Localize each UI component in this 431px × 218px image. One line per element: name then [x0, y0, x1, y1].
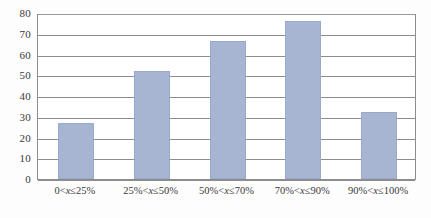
- bar: [285, 21, 321, 179]
- y-axis-tick-label: 40: [0, 91, 31, 102]
- bar: [58, 123, 94, 179]
- y-axis-tick-label: 0: [0, 174, 31, 185]
- y-axis-tick-label: 50: [0, 70, 31, 81]
- y-axis-tick-label: 20: [0, 133, 31, 144]
- y-axis-tick-label: 10: [0, 153, 31, 164]
- x-axis-tick-label: 90%<x≤100%: [340, 184, 416, 197]
- y-axis-tick-label: 30: [0, 112, 31, 123]
- x-axis-tick-label: 0<x≤25%: [37, 184, 113, 197]
- y-axis-tick-label: 60: [0, 50, 31, 61]
- x-axis-labels: 0<x≤25%25%<x≤50%50%<x≤70%70%<x≤90%90%<x≤…: [37, 184, 416, 206]
- bar: [361, 112, 397, 179]
- bar: [134, 71, 170, 179]
- y-axis-tick-label: 80: [0, 8, 31, 19]
- plot-area: [37, 14, 416, 180]
- x-axis-tick-label: 50%<x≤70%: [189, 184, 265, 197]
- bars-layer: [38, 14, 415, 179]
- bar-chart: 01020304050607080 0<x≤25%25%<x≤50%50%<x≤…: [0, 0, 431, 218]
- y-axis-tick-label: 70: [0, 29, 31, 40]
- x-axis-tick-label: 25%<x≤50%: [113, 184, 189, 197]
- x-axis-tick-label: 70%<x≤90%: [264, 184, 340, 197]
- bar: [210, 41, 246, 179]
- gridline: [38, 180, 415, 181]
